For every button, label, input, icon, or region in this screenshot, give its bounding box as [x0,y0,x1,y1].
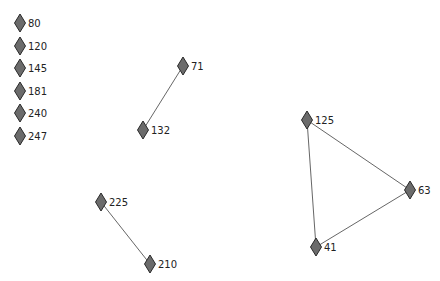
edge-225-210 [101,202,150,264]
edge-71-132 [143,66,183,130]
node-80[interactable]: 80 [15,14,41,32]
diamond-node-icon[interactable] [405,181,416,199]
node-label: 181 [28,86,47,97]
node-132[interactable]: 132 [138,121,171,139]
diamond-node-icon[interactable] [15,37,26,55]
node-label: 132 [151,125,170,136]
node-label: 210 [158,259,177,270]
network-graph: 80120145181240247711321256341225210 [0,0,440,281]
graph-canvas: 80120145181240247711321256341225210 [0,0,440,281]
node-label: 145 [28,63,47,74]
edge-63-41 [316,190,410,247]
diamond-node-icon[interactable] [15,82,26,100]
node-label: 125 [315,115,334,126]
diamond-node-icon[interactable] [96,193,107,211]
node-41[interactable]: 41 [311,238,337,256]
node-label: 71 [191,61,204,72]
diamond-node-icon[interactable] [15,14,26,32]
node-label: 247 [28,131,47,142]
edge-125-63 [307,120,410,190]
diamond-node-icon[interactable] [15,104,26,122]
node-71[interactable]: 71 [178,57,204,75]
diamond-node-icon[interactable] [145,255,156,273]
node-label: 80 [28,18,41,29]
node-63[interactable]: 63 [405,181,431,199]
node-label: 41 [324,242,337,253]
diamond-node-icon[interactable] [311,238,322,256]
node-240[interactable]: 240 [15,104,48,122]
node-layer: 80120145181240247711321256341225210 [15,14,431,273]
node-210[interactable]: 210 [145,255,178,273]
node-label: 225 [109,197,128,208]
edge-125-41 [307,120,316,247]
node-label: 240 [28,108,47,119]
diamond-node-icon[interactable] [15,127,26,145]
node-181[interactable]: 181 [15,82,48,100]
node-label: 120 [28,41,47,52]
node-label: 63 [418,185,431,196]
node-120[interactable]: 120 [15,37,48,55]
node-225[interactable]: 225 [96,193,129,211]
node-247[interactable]: 247 [15,127,48,145]
node-125[interactable]: 125 [302,111,335,129]
diamond-node-icon[interactable] [15,59,26,77]
diamond-node-icon[interactable] [302,111,313,129]
edge-layer [101,66,410,264]
node-145[interactable]: 145 [15,59,48,77]
